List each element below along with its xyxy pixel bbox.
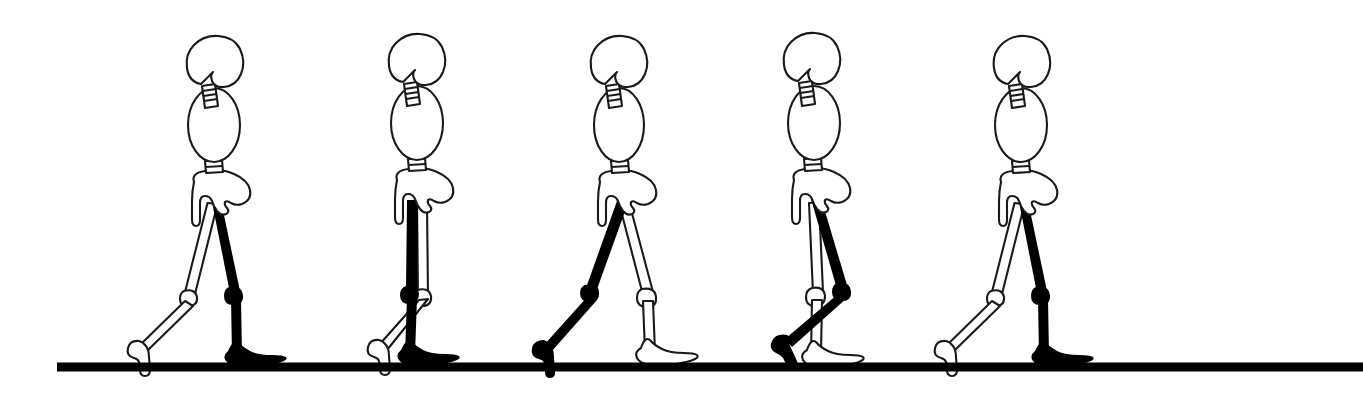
lumbar-rung (206, 166, 223, 167)
ground-line (57, 363, 1363, 372)
skull (591, 36, 648, 87)
gait-sequence-svg (0, 0, 1363, 402)
axial-skeleton-4 (784, 33, 851, 224)
gait-diagram-canvas: Human gait cycle — sagittal skeletal sti… (0, 0, 1363, 402)
lumbar-rung (409, 164, 426, 165)
skull (389, 34, 446, 85)
skull (994, 36, 1051, 87)
lumbar-rung (1013, 166, 1030, 167)
far-femur (417, 202, 428, 296)
axial-skeleton-2 (389, 34, 454, 224)
skull (784, 33, 841, 84)
lumbar-rung (805, 164, 822, 165)
skull (187, 36, 244, 87)
lumbar-rung (612, 166, 629, 167)
near-femur (406, 200, 418, 290)
